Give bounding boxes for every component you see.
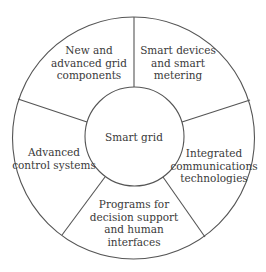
center-label-text: Smart grid: [105, 131, 163, 144]
segment-line: New and: [51, 44, 127, 57]
segment-line: communications: [170, 160, 257, 173]
center-label: Smart grid: [105, 131, 163, 144]
divider-upper-left: [18, 99, 87, 122]
segment-integrated-communications: Integrated communications technologies: [170, 147, 257, 185]
segment-line: Smart devices: [140, 44, 216, 57]
segment-line: components: [51, 69, 127, 82]
segment-line: metering: [140, 69, 216, 82]
segment-line: Advanced: [12, 146, 96, 159]
segment-line: control systems: [12, 158, 96, 171]
segment-line: Programs for: [90, 198, 179, 211]
segment-line: and human: [90, 223, 179, 236]
segment-line: Integrated: [170, 147, 257, 160]
divider-upper-right: [182, 100, 250, 122]
segment-line: technologies: [170, 172, 257, 185]
segment-decision-support-programs: Programs for decision support and human …: [90, 198, 179, 248]
segment-advanced-control-systems: Advanced control systems: [12, 146, 96, 171]
segment-line: and smart: [140, 57, 216, 70]
segment-line: decision support: [90, 211, 179, 224]
segment-line: interfaces: [90, 236, 179, 249]
segment-new-advanced-grid-components: New and advanced grid components: [51, 44, 127, 82]
segment-line: advanced grid: [51, 57, 127, 70]
segment-smart-devices-metering: Smart devices and smart metering: [140, 44, 216, 82]
